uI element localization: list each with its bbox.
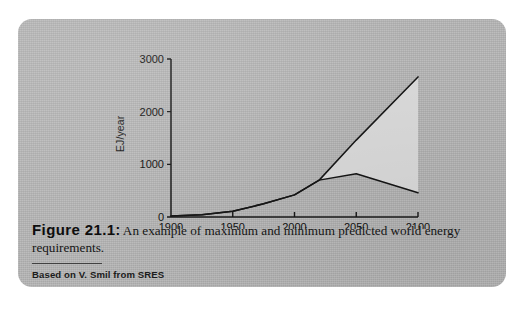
y-tick-label: 1000 (140, 158, 164, 170)
y-axis-title: EJ/year (113, 91, 127, 177)
figure-source-note: Based on V. Smil from SRES (32, 269, 484, 280)
page-root: 19001950200020502100 0100020003000 EJ/ye… (0, 0, 524, 312)
y-tick-label: 2000 (140, 106, 164, 118)
y-axis-tick-labels: 0100020003000 (140, 53, 164, 223)
figure-caption-line: Figure 21.1: An example of maximum and m… (32, 222, 484, 256)
chart-plot-area: 19001950200020502100 0100020003000 (96, 29, 456, 229)
source-divider (32, 263, 102, 264)
figure-caption-colon: : (116, 222, 121, 238)
figure-card: 19001950200020502100 0100020003000 EJ/ye… (18, 19, 506, 287)
figure-caption-block: Figure 21.1: An example of maximum and m… (32, 222, 484, 280)
energy-projection-chart: 19001950200020502100 0100020003000 (96, 29, 456, 229)
figure-number-label: Figure 21.1 (32, 221, 116, 238)
y-tick-label: 3000 (140, 53, 164, 65)
